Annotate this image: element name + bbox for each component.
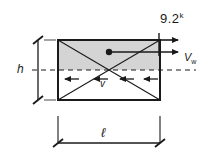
shear-force-subscript: w	[191, 58, 196, 65]
shear-force-label: Vw	[184, 52, 196, 65]
wall-upper-shading	[59, 41, 159, 70]
applied-load-label: 9.2k	[160, 12, 184, 25]
applied-load-unit: k	[180, 11, 184, 20]
internal-shear-label: v	[100, 79, 105, 89]
height-label: h	[17, 63, 24, 75]
length-label: ℓ	[101, 126, 105, 139]
shear-wall-diagram: 9.2k Vw h ℓ v	[0, 0, 210, 168]
length-dimension	[53, 116, 165, 147]
applied-load-value: 9.2	[160, 11, 180, 26]
